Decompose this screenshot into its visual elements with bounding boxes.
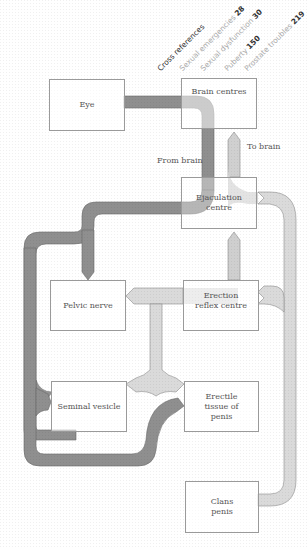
- glans-penis-label: Clans penis: [207, 497, 237, 517]
- to-brain-label: To brain: [247, 142, 281, 151]
- eye-label: Eye: [79, 100, 94, 110]
- brain-centres-box: Brain centres: [181, 78, 257, 129]
- seminal-vesicle-label: Seminal vesicle: [57, 402, 120, 412]
- from-brain-label: From brain: [157, 156, 203, 165]
- pelvic-nerve-box: Pelvic nerve: [50, 280, 126, 331]
- seminal-vesicle-box: Seminal vesicle: [51, 381, 127, 432]
- diagram-pathways: [0, 0, 308, 549]
- erectile-tissue-label: Erectile tissue of penis: [195, 392, 249, 422]
- erection-reflex-centre-box: Erection reflex centre: [183, 280, 259, 331]
- ejaculation-centre-label: Ejaculation centre: [193, 193, 245, 213]
- erectile-tissue-box: Erectile tissue of penis: [184, 381, 259, 432]
- erection-reflex-centre-label: Erection reflex centre: [193, 291, 249, 311]
- glans-penis-box: Clans penis: [185, 481, 259, 533]
- ejaculation-centre-box: Ejaculation centre: [181, 177, 257, 229]
- brain-centres-label: Brain centres: [192, 87, 247, 97]
- eye-box: Eye: [49, 79, 125, 131]
- pelvic-nerve-label: Pelvic nerve: [63, 301, 112, 311]
